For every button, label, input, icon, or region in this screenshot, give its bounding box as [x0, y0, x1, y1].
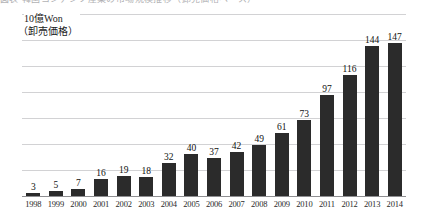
- x-axis-label: 2006: [203, 199, 226, 210]
- bar[interactable]: [184, 154, 198, 196]
- bar-value-label: 32: [158, 152, 181, 162]
- bar-slot: 16: [90, 14, 113, 196]
- x-axis-label: 2013: [361, 199, 384, 210]
- x-axis-label: 1999: [45, 199, 68, 210]
- y-axis-unit-line2: （卸売価格）: [18, 25, 78, 38]
- bar[interactable]: [275, 133, 289, 196]
- bar-slot: 32: [158, 14, 181, 196]
- bar-value-label: 97: [316, 84, 339, 94]
- bar-slot: 37: [203, 14, 226, 196]
- bar-slot: 18: [135, 14, 158, 196]
- bar-slot: 147: [383, 14, 406, 196]
- bar[interactable]: [26, 193, 40, 196]
- x-axis-label: 2014: [383, 199, 406, 210]
- bar[interactable]: [320, 95, 334, 196]
- bar-value-label: 40: [180, 143, 203, 153]
- x-axis-label: 2002: [112, 199, 135, 210]
- x-axis-label: 1998: [22, 199, 45, 210]
- bar[interactable]: [71, 189, 85, 196]
- y-axis-unit-caption: 10億Won （卸売価格）: [24, 12, 80, 38]
- x-axis-label: 2008: [248, 199, 271, 210]
- x-axis-label: 2012: [338, 199, 361, 210]
- x-axis-label: 2005: [180, 199, 203, 210]
- bar-slot: 73: [293, 14, 316, 196]
- bar[interactable]: [252, 145, 266, 196]
- bar-value-label: 147: [383, 32, 406, 42]
- bar-value-label: 116: [338, 64, 361, 74]
- bar-slot: 7: [67, 14, 90, 196]
- bar[interactable]: [343, 75, 357, 196]
- x-axis-label: 2000: [67, 199, 90, 210]
- x-axis-label: 2011: [316, 199, 339, 210]
- bar[interactable]: [117, 176, 131, 196]
- bar-slot: 61: [270, 14, 293, 196]
- x-axis-label: 2001: [90, 199, 113, 210]
- bar-slot: 19: [112, 14, 135, 196]
- bar-slot: 49: [248, 14, 271, 196]
- bar-value-label: 61: [270, 122, 293, 132]
- x-axis-label: 2003: [135, 199, 158, 210]
- bar-value-label: 3: [22, 182, 45, 192]
- bar[interactable]: [388, 43, 402, 196]
- x-axis-label: 2009: [270, 199, 293, 210]
- chart-container: 図表 韓国コンテンツ産業の市場規模推移（卸売価格ベース） 10億Won （卸売価…: [0, 0, 421, 217]
- bar-slot: 144: [361, 14, 384, 196]
- bar[interactable]: [297, 120, 311, 196]
- bar-value-label: 49: [248, 134, 271, 144]
- bar[interactable]: [49, 191, 63, 196]
- bar-value-label: 5: [45, 180, 68, 190]
- bar-slot: 116: [338, 14, 361, 196]
- x-axis-labels-group: 1998199920002001200220032004200520062007…: [22, 199, 406, 213]
- bar-value-label: 37: [203, 147, 226, 157]
- bar-slot: 40: [180, 14, 203, 196]
- bar-slot: 97: [316, 14, 339, 196]
- bar[interactable]: [162, 163, 176, 196]
- y-axis-unit-line1: 10億Won: [24, 12, 78, 25]
- x-axis-label: 2010: [293, 199, 316, 210]
- x-axis-baseline: [22, 196, 406, 197]
- bar-value-label: 19: [112, 165, 135, 175]
- bar-value-label: 16: [90, 168, 113, 178]
- bar[interactable]: [365, 46, 379, 196]
- bar-slot: 5: [45, 14, 68, 196]
- bar-value-label: 144: [361, 35, 384, 45]
- bar[interactable]: [94, 179, 108, 196]
- cropped-header-text: 図表 韓国コンテンツ産業の市場規模推移（卸売価格ベース）: [0, 0, 421, 8]
- bar[interactable]: [139, 177, 153, 196]
- bars-group: 3571619183240374249617397116144147: [22, 14, 406, 196]
- bar-value-label: 7: [67, 178, 90, 188]
- bar-value-label: 42: [225, 141, 248, 151]
- bar-slot: 3: [22, 14, 45, 196]
- cropped-header-text-label: 図表 韓国コンテンツ産業の市場規模推移（卸売価格ベース）: [0, 0, 257, 4]
- bar[interactable]: [207, 158, 221, 196]
- bar-value-label: 73: [293, 109, 316, 119]
- bar-value-label: 18: [135, 166, 158, 176]
- x-axis-label: 2004: [158, 199, 181, 210]
- x-axis-label: 2007: [225, 199, 248, 210]
- bar[interactable]: [230, 152, 244, 196]
- bar-slot: 42: [225, 14, 248, 196]
